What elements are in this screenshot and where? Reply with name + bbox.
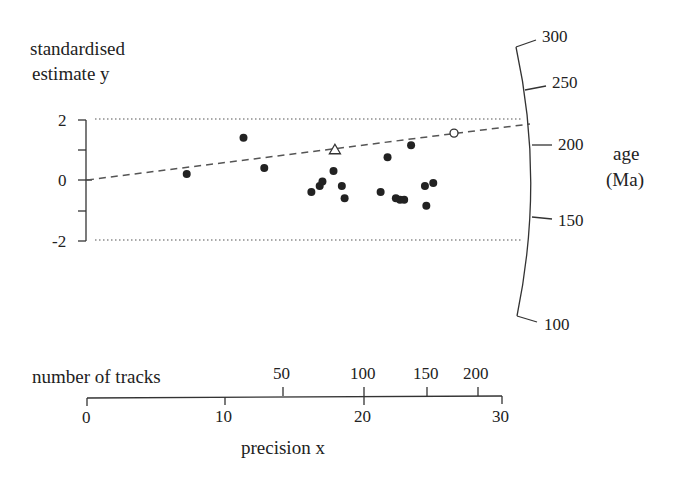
age-label-line2: (Ma) — [606, 169, 644, 191]
reference-age-line — [87, 124, 530, 180]
age-label-line1: age — [613, 143, 639, 164]
tracks-tick-150: 150 — [413, 364, 439, 383]
x-tick-0: 0 — [82, 408, 91, 427]
radial-plot: standardised estimate y 2 0 -2 300 250 2… — [0, 0, 679, 481]
data-point-filled-circle — [429, 179, 437, 187]
y-tick-minus2: -2 — [52, 232, 66, 251]
data-point-filled-circle — [183, 170, 191, 178]
data-point-filled-circle — [341, 194, 349, 202]
data-point-open-circle — [450, 129, 458, 137]
data-point-filled-circle — [338, 182, 346, 190]
x-axis-label: precision x — [241, 437, 325, 458]
age-tick-200: 200 — [558, 135, 584, 154]
x-tick-30: 30 — [492, 407, 509, 426]
y-axis-label-line1: standardised — [30, 38, 125, 59]
data-point-filled-circle — [260, 164, 268, 172]
data-point-filled-circle — [422, 202, 430, 210]
data-points — [183, 129, 458, 210]
tracks-axis: 50 100 150 200 — [273, 364, 489, 397]
data-point-filled-circle — [421, 182, 429, 190]
y-tick-0: 0 — [58, 171, 67, 190]
data-point-filled-circle — [307, 188, 315, 196]
age-tick-300: 300 — [542, 27, 568, 46]
tracks-tick-100: 100 — [350, 364, 376, 383]
data-point-filled-circle — [240, 134, 248, 142]
y-axis-label-line2: estimate y — [32, 63, 110, 84]
x-axis: 0 10 20 30 — [82, 396, 509, 427]
data-point-filled-circle — [330, 167, 338, 175]
age-arc-axis: 300 250 200 150 100 — [516, 27, 584, 334]
data-point-filled-circle — [318, 178, 326, 186]
data-point-filled-circle — [384, 153, 392, 161]
tracks-tick-200: 200 — [463, 364, 489, 383]
data-point-filled-circle — [377, 188, 385, 196]
x-tick-20: 20 — [354, 407, 371, 426]
age-tick-250: 250 — [552, 73, 578, 92]
x-tick-10: 10 — [215, 407, 232, 426]
y-tick-2: 2 — [58, 111, 67, 130]
age-tick-150: 150 — [558, 211, 584, 230]
data-point-filled-circle — [407, 141, 415, 149]
tracks-label: number of tracks — [32, 366, 161, 387]
data-point-filled-circle — [400, 196, 408, 204]
y-axis: 2 0 -2 — [52, 111, 92, 251]
tracks-tick-50: 50 — [273, 364, 290, 383]
age-tick-100: 100 — [544, 315, 570, 334]
